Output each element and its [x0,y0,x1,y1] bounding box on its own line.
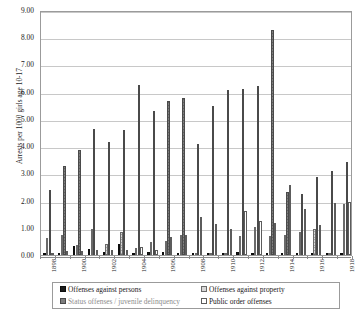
y-axis-tick-label: 5.00 [21,116,34,124]
bar [271,30,273,255]
x-axis-tick-label: 1906 [169,259,176,272]
bar [123,130,125,255]
legend-label: Offenses against persons [68,285,141,294]
bar [230,229,232,255]
legend-swatch-icon [201,286,207,292]
bar [140,247,142,255]
x-axis-tick-label: 1900 [80,259,87,272]
bar-group [219,12,234,255]
bar-group [279,12,294,255]
bar-group [41,12,56,255]
y-axis-tick-label: 6.00 [21,89,34,97]
legend-row: Status offenses / juvenile delinquency P… [53,297,339,309]
y-axis-tick-label: 3.00 [21,170,34,178]
x-axis-tick-label: 1916 [318,259,325,272]
bar-group [323,12,338,255]
legend-item-offenses-against-persons: Offenses against persons [60,285,141,294]
x-axis-tick-label: 1910 [229,259,236,272]
bar-group [71,12,86,255]
bar [182,98,184,255]
bar [51,253,53,255]
legend-swatch-icon [201,298,207,304]
y-axis-tick-label: 2.00 [21,198,34,206]
legend-item-offenses-against-property: Offenses against property [201,285,285,294]
legend-row: Offenses against persons Offenses agains… [53,285,339,297]
bar-group [86,12,101,255]
bar-group [100,12,115,255]
bar-group [130,12,145,255]
bar [155,250,157,255]
bar-chart: Arrests per 1000 girls age 10-17 0.001.0… [0,0,362,314]
bar-group [249,12,264,255]
bar [78,150,80,255]
x-axis-tick-label: 1908 [199,259,206,272]
x-axis-tick-labels: 1898190019021904190619081910191219141916… [40,259,352,281]
bar [111,250,113,255]
bar-group [145,12,160,255]
bar-group [56,12,71,255]
y-axis-tick-label: 0.00 [21,252,34,260]
x-axis-tick-label: 1902 [110,259,117,272]
bar [200,217,202,255]
x-axis-tick-label: 1912 [258,259,265,272]
bar-group [338,12,353,255]
bar [259,221,261,255]
y-axis-tick-labels: 0.001.002.003.004.005.006.007.008.009.00 [0,11,37,256]
legend-item-public-order-offenses: Public order offenses [201,297,272,306]
bar [185,235,187,255]
bar [289,185,291,255]
bar [334,203,336,255]
bar-group [204,12,219,255]
legend-swatch-icon [60,298,66,304]
bar [319,225,321,255]
bar [170,237,172,255]
chart-legend: Offenses against persons Offenses agains… [52,282,340,309]
plot-area [40,11,352,256]
bar [93,129,95,255]
bar [66,251,68,255]
bar [244,211,246,255]
bar [348,202,350,255]
bar [49,190,51,255]
bar-group [115,12,130,255]
y-axis-tick-label: 8.00 [21,34,34,42]
bar-group [175,12,190,255]
y-axis-tick-label: 7.00 [21,61,34,69]
bar-group [264,12,279,255]
bar-group [294,12,309,255]
bar [81,251,83,255]
legend-label: Offenses against property [209,285,285,294]
bar [153,111,155,255]
bar-series-container [41,12,351,255]
bar [96,250,98,255]
bar-group [190,12,205,255]
bar-group [234,12,249,255]
x-axis-tick-label: 1898 [50,259,57,272]
bar [108,142,110,255]
bar-group [308,12,323,255]
bar [167,101,169,255]
x-axis-tick-label: 1904 [140,259,147,272]
bar [138,85,140,255]
x-axis-tick-label: 1918 [348,259,355,272]
x-axis-tick-label: 1914 [288,259,295,272]
bar [215,224,217,255]
bar [63,166,65,255]
bar [304,209,306,255]
bar [274,223,276,255]
bar [126,250,128,255]
legend-label: Public order offenses [209,297,272,306]
y-axis-tick-label: 9.00 [21,7,34,15]
y-axis-tick-label: 4.00 [21,143,34,151]
legend-item-status-offenses: Status offenses / juvenile delinquency [60,297,180,306]
legend-swatch-icon [60,286,66,292]
y-axis-tick-label: 1.00 [21,225,34,233]
bar-group [160,12,175,255]
legend-label: Status offenses / juvenile delinquency [68,297,180,306]
